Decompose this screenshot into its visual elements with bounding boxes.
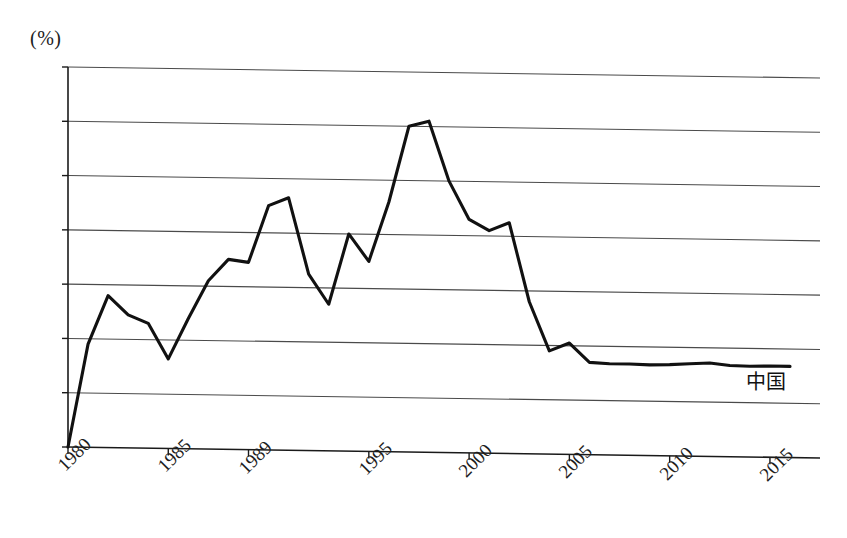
x-tick-label-2000: 2000 [455,440,495,480]
x-tick-label-2010: 2010 [656,443,696,483]
x-tick-label-1980: 1980 [54,434,94,474]
x-tick-label-1989: 1989 [235,437,275,477]
x-tick-label-1985: 1985 [154,436,194,476]
x-tick-label-2015: 2015 [756,444,796,484]
x-tick-label-1995: 1995 [355,439,395,479]
x-axis-tick-labels: 19801985198919952000200520102015 [0,0,847,538]
x-tick-label-2005: 2005 [555,441,595,481]
line-chart: (%) 1716151413121110 1980198519891995200… [0,0,847,538]
series-label-china: 中国 [746,372,786,392]
